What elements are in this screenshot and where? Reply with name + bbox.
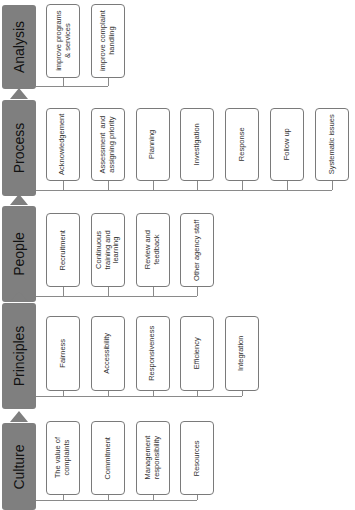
item-label: Commitment bbox=[103, 437, 112, 480]
stage-block-analysis: Analysis bbox=[2, 5, 36, 89]
item-label: Integration bbox=[238, 336, 247, 371]
item-label: Acknowledgement bbox=[59, 114, 68, 175]
flow-arrow-up-icon bbox=[10, 194, 28, 205]
connector-tick bbox=[63, 78, 64, 86]
item-label: Accessibility bbox=[103, 333, 112, 374]
stage-block-culture: Culture bbox=[2, 423, 36, 510]
item-label: Planning bbox=[148, 130, 157, 159]
connector-tick bbox=[242, 391, 243, 396]
stage-block-process: Process bbox=[2, 100, 36, 196]
connector-tick bbox=[153, 181, 154, 190]
connector-tick bbox=[63, 287, 64, 296]
item-label: Recruitment bbox=[59, 230, 68, 270]
item-box: Continuous training and learning bbox=[91, 213, 125, 287]
item-label: Review and feedback bbox=[144, 230, 161, 269]
item-label: Fairness bbox=[59, 339, 68, 368]
connector-tick bbox=[108, 391, 109, 396]
item-label: Follow up bbox=[283, 128, 292, 160]
connector-line bbox=[36, 296, 197, 297]
stage-label: Process bbox=[11, 123, 27, 174]
item-label: Resources bbox=[193, 440, 202, 476]
item-label: Management responsibility bbox=[144, 436, 161, 480]
item-box: Responsiveness bbox=[136, 316, 170, 391]
stage-label: Principles bbox=[11, 326, 27, 387]
connector-tick bbox=[197, 391, 198, 396]
item-box: Response bbox=[225, 108, 259, 181]
connector-tick bbox=[197, 287, 198, 296]
connector-tick bbox=[108, 495, 109, 500]
stage-block-people: People bbox=[2, 206, 36, 302]
connector-tick bbox=[108, 287, 109, 296]
item-label: Responsiveness bbox=[148, 326, 157, 381]
item-box: Other agency staff bbox=[180, 213, 214, 287]
item-label: Other agency staff bbox=[193, 219, 202, 280]
item-box: Accessibility bbox=[91, 316, 125, 391]
item-box: improve complaint handling bbox=[91, 4, 125, 78]
item-box: Fairness bbox=[46, 316, 80, 391]
item-label: Investigation bbox=[193, 123, 202, 165]
stage-label: Culture bbox=[11, 444, 27, 489]
connector-tick bbox=[332, 181, 333, 190]
item-box: improve programs & services bbox=[46, 4, 80, 78]
connector-tick bbox=[153, 391, 154, 396]
stage-block-principles: Principles bbox=[2, 303, 36, 409]
connector-tick bbox=[63, 181, 64, 190]
stage-label: Analysis bbox=[11, 21, 27, 73]
connector-tick bbox=[197, 181, 198, 190]
connector-line bbox=[36, 500, 197, 501]
item-box: Recruitment bbox=[46, 213, 80, 287]
item-box: Efficiency bbox=[180, 316, 214, 391]
item-box: Resources bbox=[180, 421, 214, 495]
item-label: improve complaint handling bbox=[99, 11, 116, 72]
item-box: Investigation bbox=[180, 108, 214, 181]
connector-tick bbox=[153, 287, 154, 296]
connector-tick bbox=[153, 495, 154, 500]
item-box: Integration bbox=[225, 316, 259, 391]
item-label: Continuous training and learning bbox=[95, 230, 121, 269]
item-box: Systematic issues bbox=[315, 108, 349, 181]
connector-tick bbox=[63, 391, 64, 396]
connector-line bbox=[36, 190, 332, 191]
item-box: Planning bbox=[136, 108, 170, 181]
item-label: Efficiency bbox=[193, 338, 202, 370]
item-label: Assessment and assigning priority bbox=[99, 116, 116, 174]
item-label: improve programs & services bbox=[54, 11, 71, 71]
item-box: The value of complaints bbox=[46, 421, 80, 495]
item-box: Follow up bbox=[270, 108, 304, 181]
item-box: Review and feedback bbox=[136, 213, 170, 287]
flow-arrow-up-icon bbox=[10, 411, 28, 422]
item-label: The value of complaints bbox=[54, 437, 71, 478]
item-box: Commitment bbox=[91, 421, 125, 495]
item-label: Systematic issues bbox=[327, 114, 336, 174]
item-label: Response bbox=[238, 128, 247, 162]
item-box: Assessment and assigning priority bbox=[91, 108, 125, 181]
connector-tick bbox=[63, 495, 64, 500]
flow-arrow-up-icon bbox=[10, 291, 28, 302]
connector-line bbox=[36, 396, 242, 397]
item-box: Acknowledgement bbox=[46, 108, 80, 181]
connector-tick bbox=[197, 495, 198, 500]
item-box: Management responsibility bbox=[136, 421, 170, 495]
stage-label: People bbox=[11, 232, 27, 276]
connector-tick bbox=[108, 181, 109, 190]
flow-arrow-up-icon bbox=[10, 88, 28, 99]
connector-line bbox=[36, 86, 108, 87]
connector-tick bbox=[242, 181, 243, 190]
connector-tick bbox=[108, 78, 109, 86]
connector-tick bbox=[287, 181, 288, 190]
